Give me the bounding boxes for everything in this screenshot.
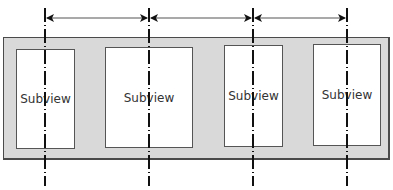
subview-4: Subview [313,44,381,146]
subview-label: Subview [124,91,174,105]
subview-label: Subview [20,92,70,106]
subview-spacing-diagram: Subview Subview Subview Subview [0,0,393,190]
subview-1: Subview [16,49,75,149]
subview-label: Subview [322,88,372,102]
subview-label: Subview [228,89,278,103]
subview-2: Subview [105,47,193,148]
subview-3: Subview [224,45,283,147]
